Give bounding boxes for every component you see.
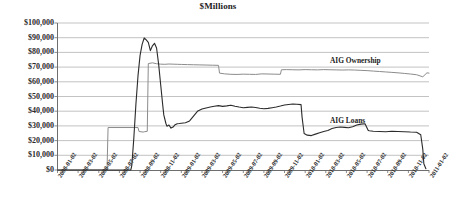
x-axis-tick-label: 2009-07-02 [242, 151, 263, 179]
x-axis-tick-label: 2009-09-02 [262, 151, 283, 179]
x-axis-tick-label: 2008-07-02 [118, 151, 139, 179]
x-axis-tick-label: 2010-01-02 [304, 151, 325, 179]
x-axis-tick-label: 2008-03-02 [77, 151, 98, 179]
x-axis-tick-label: 2008-01-02 [56, 151, 77, 179]
series-label: AIG Loans [330, 116, 365, 125]
x-axis-tick-label: 2010-11-02 [407, 151, 428, 178]
x-axis-tick-label: 2009-11-02 [283, 151, 304, 178]
x-axis-tick-label: 2008-09-02 [139, 151, 160, 179]
series-label: AIG Ownership [330, 56, 381, 65]
x-axis-tick-label: 2009-05-02 [221, 151, 242, 179]
x-axis-tick-label: 2010-07-02 [366, 151, 387, 179]
x-axis-tick-label: 2010-05-02 [345, 151, 366, 179]
x-axis-tick-label: 2010-09-02 [386, 151, 407, 179]
x-axis-tick-label: 2008-11-02 [159, 151, 180, 178]
x-axis-tick-label: 2011-01-02 [428, 151, 449, 178]
x-axis-tick-label: 2009-01-02 [180, 151, 201, 179]
x-axis-tick-label: 2008-05-02 [97, 151, 118, 179]
x-axis-tick-label: 2010-03-02 [324, 151, 345, 179]
x-axis-tick-label: 2009-03-02 [200, 151, 221, 179]
